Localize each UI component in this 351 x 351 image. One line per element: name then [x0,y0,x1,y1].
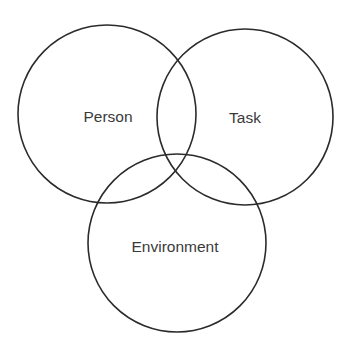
label-environment: Environment [131,238,219,255]
label-task: Task [229,109,261,126]
label-person: Person [83,108,132,125]
venn-diagram: Person Task Environment [0,0,351,351]
